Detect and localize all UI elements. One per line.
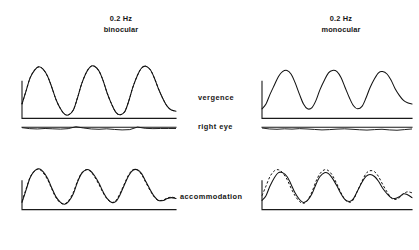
column-heading-monocular-frequency: 0.2 Hz	[282, 14, 400, 25]
trace-accommodation-monocular-series-0	[262, 172, 412, 202]
column-heading-monocular: 0.2 Hz monocular	[282, 14, 400, 35]
trace-panel-accommodation-monocular	[258, 160, 416, 230]
row-label-accommodation: accommodation	[180, 192, 243, 201]
calibration-axis	[262, 81, 412, 118]
column-heading-binocular: 0.2 Hz binocular	[62, 14, 180, 35]
trace-svg-right-eye-monocular	[258, 118, 416, 140]
trace-panel-right-eye-monocular	[258, 118, 416, 140]
trace-righteye-monocular-series-0	[262, 128, 412, 130]
column-heading-binocular-condition: binocular	[62, 25, 180, 36]
trace-svg-vergence-binocular	[18, 58, 180, 126]
column-heading-binocular-frequency: 0.2 Hz	[62, 14, 180, 25]
trace-vergence-monocular-series-0	[262, 70, 412, 109]
trace-panel-right-eye-binocular	[18, 118, 180, 140]
trace-svg-accommodation-monocular	[258, 160, 416, 230]
trace-vergence-binocular-series-1	[22, 66, 176, 115]
trace-svg-vergence-monocular	[258, 58, 416, 126]
row-label-right-eye: right eye	[198, 122, 233, 131]
trace-svg-accommodation-binocular	[18, 160, 180, 230]
trace-vergence-binocular-series-0	[22, 66, 176, 115]
calibration-axis	[22, 81, 176, 118]
trace-panel-accommodation-binocular	[18, 160, 180, 230]
row-label-vergence: vergence	[198, 93, 234, 102]
column-heading-monocular-condition: monocular	[282, 25, 400, 36]
figure-root: 0.2 Hz binocular 0.2 Hz monocular vergen…	[0, 0, 419, 250]
trace-svg-right-eye-binocular	[18, 118, 180, 140]
trace-accommodation-binocular-series-0	[22, 169, 176, 205]
trace-panel-vergence-monocular	[258, 58, 416, 126]
trace-panel-vergence-binocular	[18, 58, 180, 126]
